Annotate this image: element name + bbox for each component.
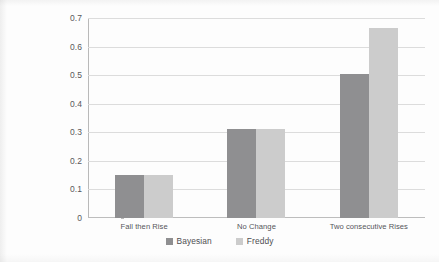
bar-group — [88, 18, 200, 218]
bar-bayesian[interactable] — [340, 74, 369, 218]
legend-label: Freddy — [247, 236, 274, 246]
x-tick-label: Fall then Rise — [88, 220, 200, 234]
bar-groups — [88, 18, 425, 218]
y-tick-label: 0.2 — [48, 156, 82, 166]
bar-freddy[interactable] — [256, 129, 285, 218]
legend-item-freddy[interactable]: Freddy — [236, 236, 274, 246]
bar-group — [200, 18, 312, 218]
bar-freddy[interactable] — [369, 28, 398, 218]
y-tick-label: 0.7 — [48, 13, 82, 23]
y-tick-label: 0.1 — [48, 184, 82, 194]
x-tick-label: Two consecutive Rises — [313, 220, 425, 234]
bar-bayesian[interactable] — [115, 175, 144, 218]
plot-area — [88, 18, 425, 218]
chart-legend: Bayesian Freddy — [0, 236, 439, 246]
bar-bayesian[interactable] — [227, 129, 256, 218]
y-tick-label: 0 — [48, 213, 82, 223]
bar-pair — [227, 18, 285, 218]
y-tick-label: 0.6 — [48, 42, 82, 52]
x-axis: Fall then Rise No Change Two consecutive… — [88, 220, 425, 234]
bar-freddy[interactable] — [144, 175, 173, 218]
y-tick-mark — [121, 218, 124, 219]
x-tick-label: No Change — [200, 220, 312, 234]
legend-swatch-icon — [236, 238, 243, 245]
bar-chart: 0.7 0.6 0.5 0.4 0.3 0.2 0.1 0 — [0, 0, 439, 262]
legend-item-bayesian[interactable]: Bayesian — [166, 236, 212, 246]
y-tick-label: 0.4 — [48, 99, 82, 109]
y-tick-label: 0.5 — [48, 70, 82, 80]
bar-pair — [115, 18, 173, 218]
bar-pair — [340, 18, 398, 218]
y-axis: 0.7 0.6 0.5 0.4 0.3 0.2 0.1 0 — [40, 18, 82, 218]
legend-label: Bayesian — [177, 236, 212, 246]
legend-swatch-icon — [166, 238, 173, 245]
bar-group — [313, 18, 425, 218]
y-tick-label: 0.3 — [48, 127, 82, 137]
